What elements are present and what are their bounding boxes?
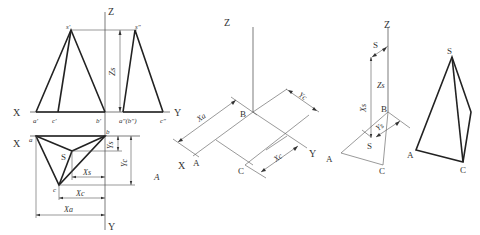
arrow-icon [36,214,40,216]
label-xs: Xs [82,168,91,177]
label-xc: Xc [75,189,85,198]
label-iso2-z: Z [384,19,390,30]
side-view-outline [123,30,163,112]
arrow-icon [261,168,266,172]
xa-ext-left [173,139,199,157]
arrow-icon [101,214,105,216]
label-a-prime: a′ [33,117,39,125]
top-view-base-triangle [36,136,105,185]
label-c: c [53,186,57,194]
arrow-icon [370,57,372,61]
label-iso1-y: Y [309,148,316,159]
label-iso2-zs: Zs [377,81,385,90]
isometric-result-view: S A C [407,46,471,175]
arrow-icon [117,147,119,151]
label-c-prime: c′ [52,117,57,125]
label-top-a: A [153,172,160,182]
top-view: X Y a b c S Ys Yc Xs Xc Xa A [13,128,160,232]
label-z: Z [108,6,114,17]
arrow-icon [101,197,105,199]
label-iso2-a: A [326,154,333,164]
label-s: S [61,152,66,162]
front-view-outline [36,30,105,112]
arrow-icon [372,53,377,57]
construction-line-1 [216,140,253,165]
label-iso1-c: C [238,166,244,176]
isometric-base-view: Z X Y A B C Xa Yc Xc [173,17,319,178]
label-iso1-z: Z [224,17,230,28]
construction-line-3 [266,136,287,150]
label-yc: Yc [120,159,129,167]
label-b-prime: b′ [96,117,102,125]
label-iso2-b: B [381,104,387,114]
label-top-y: Y [108,221,115,232]
label-iso2-s-top: S [373,40,378,50]
label-iso2-s: S [367,141,372,151]
pyramid-outline [416,57,471,162]
label-ab-double-prime: a″(b″) [119,117,137,125]
label-iso1-x: X [178,160,186,171]
arrow-icon [293,146,298,151]
arrow-icon [231,100,236,105]
label-iso1-b: B [240,109,246,119]
label-x: X [13,107,21,118]
label-iso2-xs: Xs [359,104,368,113]
label-s-double-prime: s″ [135,23,141,31]
yc-ext-b [253,89,287,112]
arrow-icon [119,107,122,112]
label-iso3-a: A [407,150,414,160]
label-c-double-prime: c″ [160,117,166,125]
arrow-icon [130,181,132,185]
label-b: b [106,128,110,136]
isometric-apex-view: Z S Zs Xs B Ys S A C [326,19,410,176]
arrow-icon [119,30,122,35]
pyramid-projection-diagram: Z X Y s′ a′ c′ b′ s″ a″(b″) c″ Zs [0,0,480,235]
label-y: Y [174,107,181,118]
label-iso3-c: C [460,165,466,175]
xa-dim-line [178,100,236,142]
arrow-icon [382,47,387,52]
arrow-icon [59,197,63,199]
arrow-icon [376,133,381,137]
iso2-base-triangle [341,112,388,165]
label-a: a [29,136,33,144]
iso2-y-axis [388,112,410,128]
label-zs: Zs [107,67,117,76]
label-s-prime: s′ [66,23,71,31]
label-iso2-c: C [379,166,385,176]
label-ys: Ys [106,141,115,149]
front-side-view: Z X Y s′ a′ c′ b′ s″ a″(b″) c″ Zs [13,6,181,230]
arrow-icon [101,176,105,178]
arrow-icon [130,136,132,140]
arrow-icon [117,136,119,140]
arrow-icon [72,176,76,178]
diagram-canvas: Z X Y s′ a′ c′ b′ s″ a″(b″) c″ Zs [0,0,480,235]
label-iso1-a: A [193,158,200,168]
iso1-y-axis [253,112,307,148]
label-xa: Xa [63,205,73,214]
label-iso1-yc: Yc [297,90,309,102]
top-edge-bs [72,136,105,151]
label-top-x: X [13,138,21,149]
arrow-icon [395,121,400,126]
label-iso3-s: S [447,46,452,56]
front-view-edge-sc [58,30,71,112]
label-iso1-xc: Xc [271,151,284,164]
